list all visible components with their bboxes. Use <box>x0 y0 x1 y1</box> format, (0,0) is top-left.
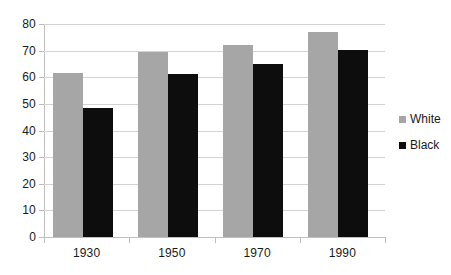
bar-white-1930 <box>53 73 83 237</box>
y-axis-label-10: 10 <box>2 204 36 216</box>
legend-item-black[interactable]: Black <box>399 138 451 164</box>
bar-black-1990 <box>338 50 368 237</box>
x-axis-tick-1990 <box>385 237 386 243</box>
legend-item-white[interactable]: White <box>399 112 451 138</box>
bar-white-1990 <box>308 32 338 237</box>
x-axis-label-1930: 1930 <box>44 247 129 260</box>
x-axis-label-1950: 1950 <box>129 247 214 260</box>
y-axis-label-30: 30 <box>2 151 36 163</box>
bar-white-1950 <box>138 52 168 237</box>
bar-group-1970 <box>223 24 283 237</box>
bar-group-1930 <box>53 24 113 237</box>
x-axis-tick-1970 <box>300 237 301 243</box>
y-axis-labels: 01020304050607080 <box>0 0 36 275</box>
bar-black-1950 <box>168 74 198 237</box>
legend-label: Black <box>410 138 439 152</box>
x-axis-label-1990: 1990 <box>300 247 385 260</box>
y-axis-tick-70 <box>39 51 44 52</box>
y-axis-tick-10 <box>39 210 44 211</box>
y-axis-label-50: 50 <box>2 98 36 110</box>
y-axis-tick-80 <box>39 24 44 25</box>
bar-white-1970 <box>223 45 253 237</box>
y-axis-tick-40 <box>39 131 44 132</box>
legend-label: White <box>410 112 441 126</box>
y-axis-label-60: 60 <box>2 71 36 83</box>
bar-black-1930 <box>83 108 113 237</box>
y-axis-label-70: 70 <box>2 45 36 57</box>
bar-chart: 01020304050607080 WhiteBlack 19301950197… <box>0 0 451 275</box>
bar-group-1990 <box>308 24 368 237</box>
x-axis-tick-start <box>44 237 45 243</box>
gray-square-icon <box>399 116 406 123</box>
y-axis-tick-60 <box>39 77 44 78</box>
y-axis-label-20: 20 <box>2 178 36 190</box>
y-axis-tick-30 <box>39 157 44 158</box>
y-axis-label-80: 80 <box>2 18 36 30</box>
x-axis-tick-1930 <box>129 237 130 243</box>
y-axis-label-0: 0 <box>2 231 36 243</box>
y-axis-tick-20 <box>39 184 44 185</box>
x-axis-label-1970: 1970 <box>215 247 300 260</box>
y-axis-tick-50 <box>39 104 44 105</box>
plot-area <box>44 24 385 237</box>
chart-legend: WhiteBlack <box>399 112 451 164</box>
bar-black-1970 <box>253 64 283 237</box>
black-square-icon <box>399 142 406 149</box>
bar-group-1950 <box>138 24 198 237</box>
x-axis-tick-1950 <box>215 237 216 243</box>
y-axis-label-40: 40 <box>2 125 36 137</box>
